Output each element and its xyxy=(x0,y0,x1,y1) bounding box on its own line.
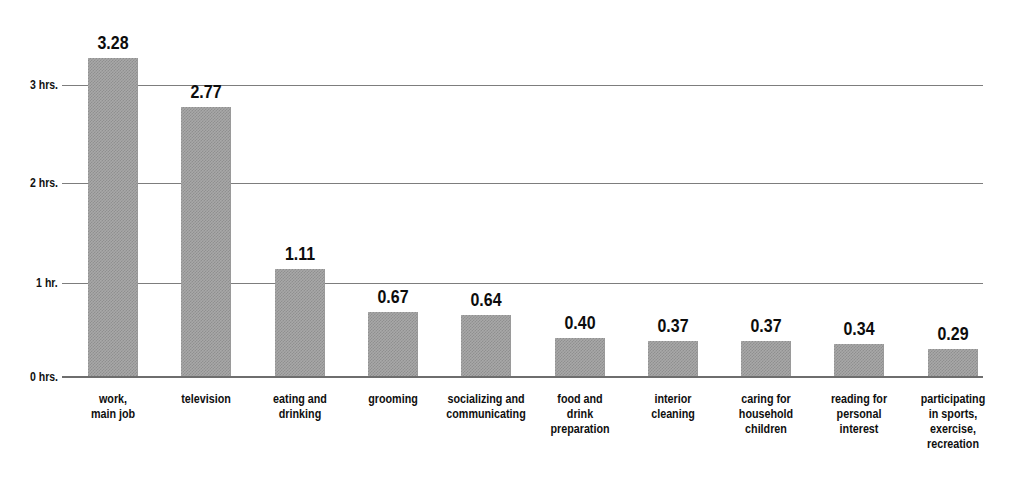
bar[interactable] xyxy=(928,349,978,377)
category-label: interior cleaning xyxy=(628,392,717,422)
y-tick-1hr: 1 hr. xyxy=(0,275,58,291)
category-label: reading for personal interest xyxy=(815,392,904,437)
bar-value-label: 0.37 xyxy=(643,315,702,337)
category-label: food and drink preparation xyxy=(535,392,624,437)
bar[interactable] xyxy=(181,107,231,377)
y-tick-label: 0 hrs. xyxy=(30,369,58,384)
bar[interactable] xyxy=(555,338,605,377)
bar-value-label: 0.40 xyxy=(550,312,609,334)
bar[interactable] xyxy=(648,341,698,377)
bar[interactable] xyxy=(461,315,511,377)
y-tick-label: 3 hrs. xyxy=(30,77,58,92)
bar-value-label: 1.11 xyxy=(270,243,329,265)
bar[interactable] xyxy=(88,58,138,377)
axis-baseline-x xyxy=(62,376,983,378)
bar-value-label: 0.64 xyxy=(457,289,516,311)
y-tick-0hrs: 0 hrs. xyxy=(0,369,58,385)
bar[interactable] xyxy=(834,344,884,377)
category-label: socializing and communicating xyxy=(441,392,530,422)
category-label: grooming xyxy=(348,392,437,407)
category-label: television xyxy=(162,392,251,407)
bar-value-label: 0.67 xyxy=(363,286,422,308)
bar[interactable] xyxy=(741,341,791,377)
bar-value-label: 0.37 xyxy=(737,315,796,337)
category-label: eating and drinking xyxy=(255,392,344,422)
bar[interactable] xyxy=(275,269,325,377)
y-tick-2hrs: 2 hrs. xyxy=(0,175,58,191)
bar-value-label: 0.29 xyxy=(923,323,982,345)
bar[interactable] xyxy=(368,312,418,377)
category-label: caring for household children xyxy=(721,392,810,437)
category-label: participating in sports, exercise, recre… xyxy=(908,392,997,452)
y-tick-label: 2 hrs. xyxy=(30,175,58,190)
y-tick-3hrs: 3 hrs. xyxy=(0,77,58,93)
bar-value-label: 0.34 xyxy=(830,318,889,340)
category-label: work, main job xyxy=(68,392,157,422)
bar-value-label: 3.28 xyxy=(84,32,143,54)
y-tick-label: 1 hr. xyxy=(36,275,58,290)
bar-chart: 3 hrs. 2 hrs. 1 hr. 0 hrs. 3.28work, mai… xyxy=(0,0,1023,502)
bar-value-label: 2.77 xyxy=(177,81,236,103)
